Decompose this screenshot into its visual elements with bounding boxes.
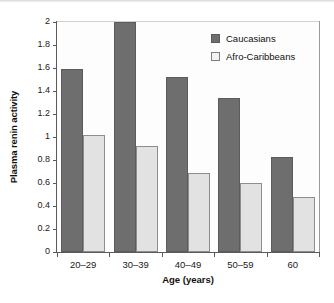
y-tick-label: 2	[45, 15, 50, 28]
y-tick-label: 1.6	[37, 61, 50, 74]
legend-swatch-icon-caucasians	[211, 34, 220, 43]
x-tick-label: 30–39	[109, 259, 161, 270]
y-tick-label: 1.8	[37, 38, 50, 51]
x-tick-mark	[319, 253, 320, 257]
y-tick-mark	[53, 160, 57, 161]
chart-legend: Caucasians Afro-Caribbeans	[211, 31, 295, 67]
top-divider	[0, 0, 334, 2]
y-tick-mark	[53, 114, 57, 115]
x-axis-title: Age (years)	[57, 274, 319, 285]
x-axis-line	[56, 252, 320, 253]
x-tick-mark	[267, 253, 268, 257]
x-tick-mark	[162, 253, 163, 257]
bar-caucasians-60	[271, 157, 293, 252]
legend-swatch-icon-afro-caribbeans	[211, 52, 220, 61]
y-tick-mark	[53, 22, 57, 23]
y-tick-label: 0.4	[37, 199, 50, 212]
bar-chart-figure: 00.20.40.60.811.21.41.61.82 20–2930–3940…	[0, 0, 334, 303]
y-tick-mark	[53, 206, 57, 207]
legend-item-afro-caribbeans: Afro-Caribbeans	[211, 49, 295, 64]
y-tick-label: 0	[45, 245, 50, 258]
y-tick-label: 1.2	[37, 107, 50, 120]
y-tick: 0	[0, 252, 57, 253]
x-tick-mark	[109, 253, 110, 257]
bar-afro-caribbeans-30-39	[136, 146, 158, 252]
x-tick-label: 50–59	[214, 259, 266, 270]
bar-afro-caribbeans-40-49	[188, 173, 210, 252]
y-tick-mark	[53, 45, 57, 46]
x-tick-label: 40–49	[162, 259, 214, 270]
plot-frame-top	[56, 21, 320, 22]
bar-afro-caribbeans-60	[293, 197, 315, 252]
y-tick-label: 0.2	[37, 222, 50, 235]
y-tick-label: 1.4	[37, 84, 50, 97]
x-tick-label: 60	[267, 259, 319, 270]
legend-label-caucasians: Caucasians	[226, 33, 276, 44]
y-tick-mark	[53, 68, 57, 69]
x-tick-mark	[57, 253, 58, 257]
bar-afro-caribbeans-50-59	[240, 183, 262, 252]
bar-caucasians-50-59	[218, 98, 240, 252]
bar-caucasians-40-49	[166, 77, 188, 252]
bar-afro-caribbeans-20-29	[83, 135, 105, 252]
x-tick-mark	[214, 253, 215, 257]
y-axis-title: Plasma renin activity	[8, 22, 22, 252]
y-tick-mark	[53, 91, 57, 92]
y-tick-mark	[53, 183, 57, 184]
legend-label-afro-caribbeans: Afro-Caribbeans	[226, 51, 295, 62]
bar-caucasians-20-29	[61, 69, 83, 252]
y-tick-mark	[53, 229, 57, 230]
y-tick-label: 0.8	[37, 153, 50, 166]
y-tick-mark	[53, 137, 57, 138]
plot-frame-right	[319, 21, 320, 253]
bar-caucasians-30-39	[114, 22, 136, 252]
legend-item-caucasians: Caucasians	[211, 31, 295, 46]
y-tick-label: 1	[45, 130, 50, 143]
y-tick-label: 0.6	[37, 176, 50, 189]
x-tick-label: 20–29	[57, 259, 109, 270]
